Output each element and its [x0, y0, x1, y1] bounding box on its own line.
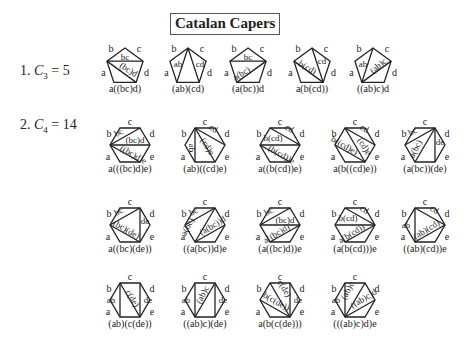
edge-label: c — [203, 271, 208, 282]
subexpression-label: cd — [318, 56, 327, 66]
parenthesization-caption: a((b(cd))e) — [258, 163, 301, 175]
hexagon-diagram: bcdeacdb(cd)(b(cd))ea((b(cd))e) — [256, 116, 305, 175]
edge-label: a — [331, 151, 336, 162]
parenthesization-caption: (((ab)c)d)e — [333, 318, 377, 330]
subexpression-label: bc — [187, 205, 199, 218]
edge-label: e — [375, 306, 380, 317]
parenthesization-caption: a((bc)d) — [109, 83, 141, 95]
subexpression-label: cd — [283, 122, 296, 135]
subexpression-label: a(bc) — [179, 216, 197, 237]
edge-label: a — [106, 231, 111, 242]
edge-label: c — [353, 116, 358, 127]
parenthesization-caption: ((ab)c)(de) — [183, 318, 226, 330]
edge-label: a — [101, 67, 106, 78]
edge-label: d — [150, 128, 155, 139]
parenthesization-caption: a((bc)(de)) — [108, 243, 151, 255]
edge-label: a — [256, 231, 261, 242]
subexpression-label: cd — [358, 122, 371, 135]
pentagon-diagram: bcdaabcd(ab)(cd) — [164, 43, 212, 96]
edge-label: a — [288, 67, 293, 78]
edge-label: c — [324, 43, 329, 54]
edge-label: e — [300, 151, 305, 162]
edge-label: d — [445, 208, 450, 219]
subexpression-label: de — [436, 137, 445, 147]
edge-label: a — [181, 151, 186, 162]
edge-label: a — [224, 67, 229, 78]
parenthesization-caption: (a((bc)d))e — [258, 243, 302, 255]
edge-label: b — [332, 283, 337, 294]
edge-label: b — [332, 208, 337, 219]
edge-label: a — [256, 306, 261, 317]
edge-label: a — [349, 67, 354, 78]
subexpression-label: (bc)d — [118, 60, 140, 79]
subexpression-label: (bc)(de) — [111, 218, 141, 241]
parenthesization-caption: (ab)(c(de)) — [108, 318, 151, 330]
edge-label: d — [392, 67, 397, 78]
parenthesization-caption: (ab)(cd) — [172, 83, 204, 95]
edge-label: b — [182, 208, 187, 219]
subexpression-label: ab — [359, 59, 368, 69]
edge-label: d — [225, 283, 230, 294]
subexpression-label: bc — [244, 52, 253, 62]
edge-label: a — [401, 151, 406, 162]
edge-label: e — [375, 231, 380, 242]
edge-label: d — [445, 128, 450, 139]
edge-label: c — [278, 116, 283, 127]
edge-label: c — [203, 196, 208, 207]
pentagon-diagram: bcdab(cd)cda(b(cd)) — [288, 43, 336, 96]
subexpression-label: bc — [112, 205, 124, 218]
parenthesization-caption: (ab)((cd)e) — [183, 163, 226, 175]
edge-label: c — [203, 116, 208, 127]
edge-label: d — [300, 283, 305, 294]
hexagon-diagram: bcdeaab(ab)cde((ab)c)(de) — [181, 271, 230, 330]
edge-label: b — [257, 128, 262, 139]
edge-label: b — [108, 43, 113, 54]
edge-label: d — [375, 208, 380, 219]
edge-label: c — [278, 196, 283, 207]
edge-label: e — [150, 151, 155, 162]
edge-label: b — [402, 208, 407, 219]
edge-label: d — [150, 283, 155, 294]
subexpression-label: ab — [187, 144, 197, 153]
edge-label: b — [231, 43, 236, 54]
subexpression-label: de — [141, 216, 150, 226]
edge-label: a — [331, 306, 336, 317]
edge-label: a — [106, 306, 111, 317]
edge-label: d — [207, 67, 212, 78]
edge-label: e — [150, 231, 155, 242]
edge-label: c — [128, 271, 133, 282]
subexpression-label: (ab)c — [368, 56, 389, 76]
edge-label: c — [423, 116, 428, 127]
edge-label: a — [401, 231, 406, 242]
subexpression-label: bc — [406, 125, 418, 138]
hexagon-diagram: bcdeacd(cd)eb((cd)e)a(b((cd)e)) — [329, 116, 379, 175]
edge-label: d — [331, 67, 336, 78]
edge-label: b — [107, 128, 112, 139]
hexagon-diagram: bcdeaab(ab)c((ab)c)d(((ab)c)d)e — [331, 271, 380, 330]
subexpression-label: b(cd) — [339, 213, 358, 223]
edge-label: d — [300, 208, 305, 219]
parenthesization-caption: a(((bc)d)e) — [108, 163, 151, 175]
edge-label: e — [150, 306, 155, 317]
hexagon-diagram: bcdeac(de)b(c(de))dea(b(c(de))) — [256, 271, 305, 330]
edge-label: d — [300, 128, 305, 139]
hexagon-diagram: bcdeabc(bc)d((bc)d)ea(((bc)d)e) — [106, 116, 155, 175]
parenthesization-caption: (a(b(cd)))e — [333, 243, 377, 255]
hexagon-diagram: bcdeabc(bc)da((bc)d)(a((bc)d))e — [256, 196, 305, 255]
edge-label: e — [375, 151, 380, 162]
edge-label: a — [106, 151, 111, 162]
edge-label: d — [225, 128, 230, 139]
edge-label: c — [353, 271, 358, 282]
subexpression-label: ab — [174, 59, 183, 69]
edge-label: e — [225, 151, 230, 162]
pentagon-diagram: bcdabca(bc)(a(bc))d — [224, 43, 272, 96]
edge-label: c — [385, 43, 390, 54]
hexagon-diagram: bcdeabca(bc)(a(bc))d((a(bc))d)e — [179, 196, 230, 255]
edge-label: d — [150, 208, 155, 219]
edge-label: d — [225, 208, 230, 219]
subexpression-label: a(bc) — [407, 138, 425, 159]
subexpression-label: (bc)d — [126, 135, 145, 145]
pentagon-diagram: bcdaab(ab)c((ab)c)d — [349, 43, 397, 96]
hexagon-diagram: bcdeaabcd(cd)e(ab)((cd)e) — [181, 116, 230, 175]
edge-label: b — [257, 283, 262, 294]
